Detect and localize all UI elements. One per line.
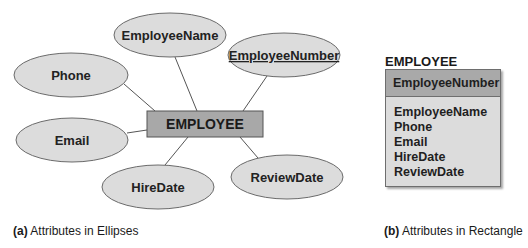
entity-rectangle: EmployeeNumber EmployeeName Phone Email … bbox=[385, 69, 501, 187]
caption-b: (b) Attributes in Rectangle bbox=[384, 224, 523, 238]
line-employeename bbox=[175, 57, 197, 111]
entity-employee: EMPLOYEE bbox=[147, 111, 263, 137]
caption-a-prefix: (a) bbox=[13, 224, 28, 238]
attribute-employeenumber-key: EmployeeNumber bbox=[228, 33, 340, 77]
attribute-email: Email bbox=[16, 118, 128, 162]
attribute-item: EmployeeName bbox=[394, 105, 500, 120]
line-email bbox=[127, 130, 147, 133]
attribute-reviewdate: ReviewDate bbox=[231, 155, 343, 199]
attribute-item: HireDate bbox=[394, 150, 500, 165]
caption-b-prefix: (b) bbox=[384, 224, 399, 238]
caption-a-text: Attributes in Ellipses bbox=[28, 224, 139, 238]
key-attribute-label: EmployeeNumber bbox=[229, 48, 340, 63]
er-diagram-ellipses: EmployeeName EmployeeNumber Phone Email … bbox=[0, 0, 370, 220]
attribute-phone: Phone bbox=[14, 53, 128, 97]
attribute-label: Email bbox=[55, 133, 90, 148]
attribute-label: Phone bbox=[51, 68, 91, 83]
line-reviewdate bbox=[240, 137, 258, 158]
line-employeenumber bbox=[243, 76, 267, 111]
attribute-item: Email bbox=[394, 135, 500, 150]
attribute-label: ReviewDate bbox=[251, 170, 324, 185]
attribute-label: HireDate bbox=[131, 180, 184, 195]
line-hiredate bbox=[165, 137, 188, 165]
line-phone bbox=[124, 84, 155, 111]
attribute-label: EmployeeName bbox=[122, 28, 219, 43]
attribute-item: Phone bbox=[394, 120, 500, 135]
attribute-employeename: EmployeeName bbox=[114, 13, 226, 57]
attribute-list: EmployeeName Phone Email HireDate Review… bbox=[386, 97, 500, 180]
attribute-hiredate: HireDate bbox=[102, 165, 214, 209]
attribute-item: ReviewDate bbox=[394, 165, 500, 180]
key-attribute: EmployeeNumber bbox=[386, 70, 500, 97]
caption-b-text: Attributes in Rectangle bbox=[399, 224, 522, 238]
entity-title: EMPLOYEE bbox=[385, 54, 457, 69]
caption-a: (a) Attributes in Ellipses bbox=[13, 224, 138, 238]
entity-label: EMPLOYEE bbox=[166, 116, 244, 132]
